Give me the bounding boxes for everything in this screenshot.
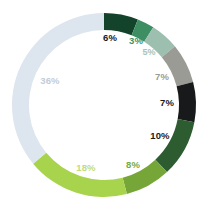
slice-label: 6%	[103, 33, 117, 43]
slice-label: 3%	[129, 36, 143, 46]
donut-slice[interactable]	[12, 13, 104, 164]
slice-label: 36%	[40, 76, 59, 86]
slice-label: 7%	[160, 98, 174, 108]
slice-label: 18%	[76, 163, 95, 173]
donut-chart: 6%3%5%7%7%10%8%18%36%	[0, 0, 210, 211]
slice-label: 10%	[150, 131, 169, 141]
donut-slice[interactable]	[33, 153, 127, 197]
donut-slice[interactable]	[177, 82, 196, 122]
slice-label: 8%	[126, 160, 140, 170]
donut-slice[interactable]	[155, 119, 194, 172]
slice-label: 7%	[155, 72, 169, 82]
slice-label: 5%	[142, 48, 155, 57]
